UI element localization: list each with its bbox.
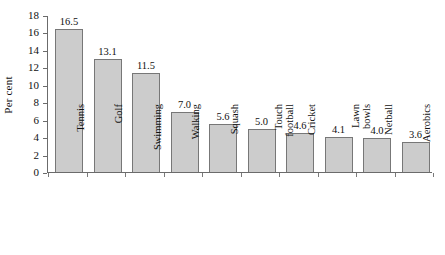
bar [248,129,276,173]
y-axis-title: Per cent [2,55,14,135]
y-axis-tick-label: 4 [34,131,40,143]
x-axis-label-line: Aerobics [421,104,432,142]
bar-group: 5.0 [248,16,276,173]
y-axis-tick-mark [43,173,47,174]
x-axis-label: Cricket [306,104,317,180]
x-axis-label: Lawnbowls [350,104,372,180]
x-axis-tick-mark [241,173,242,177]
x-axis-tick-mark [125,173,126,177]
x-axis-label-line: Golf [113,104,124,123]
y-axis-tick-label: 6 [34,114,40,126]
x-axis-label-line: Swimming [152,104,163,150]
x-axis-label-line: Cricket [306,104,317,135]
y-axis-tick-label: 2 [34,149,40,161]
bar-value-label: 13.1 [87,46,129,57]
x-axis-label: Squash [229,104,240,180]
y-axis-tick-label: 18 [28,9,39,21]
x-axis-label: Aerobics [421,104,432,180]
x-axis-label-line: Walking [190,104,201,139]
bar-chart: Per cent 181614121086420 16.513.111.57.0… [0,0,445,255]
x-axis-tick-mark [164,173,165,177]
x-axis-label-line: Tennis [75,104,86,132]
x-axis-label-line: bowls [361,104,372,180]
bar-group: 4.1 [325,16,353,173]
y-axis-tick-label: 12 [28,61,39,73]
x-axis-label-line: Squash [229,104,240,134]
x-axis-label-line: Lawn [350,104,361,128]
bar [325,137,353,173]
x-axis-label: Netball [383,104,394,180]
x-axis-label: Golf [113,104,124,180]
x-axis-label-line: Netball [383,104,394,135]
x-axis-tick-mark [395,173,396,177]
x-axis-tick-mark [48,173,49,177]
y-axis-tick-label: 10 [28,79,39,91]
x-axis-tick-mark [87,173,88,177]
y-axis-tick-label: 14 [28,44,39,56]
x-axis-label: Tennis [75,104,86,180]
x-axis-tick-mark [318,173,319,177]
x-axis-label-line: football [284,104,295,180]
x-axis-label: Walking [190,104,201,180]
bar-value-label: 16.5 [48,16,90,27]
x-axis-label-line: Touch [273,104,284,130]
y-axis-tick-label: 0 [34,166,40,178]
x-axis-tick-mark [433,173,434,177]
y-axis-tick-label: 8 [34,96,40,108]
x-axis-tick-mark [202,173,203,177]
x-axis-label: Touchfootball [273,104,295,180]
bar-value-label: 11.5 [125,60,167,71]
x-axis-label: Swimming [152,104,163,180]
plot-area: 16.513.111.57.05.65.04.64.14.03.6 [48,16,432,173]
y-axis-tick-label: 16 [28,26,39,38]
